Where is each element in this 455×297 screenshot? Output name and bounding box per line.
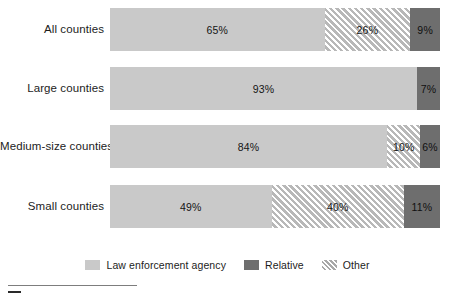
legend-item-law-enforcement-agency: Law enforcement agency	[85, 259, 226, 271]
segment-law-enforcement: 49%	[110, 185, 272, 228]
segment-value: 49%	[180, 201, 202, 213]
bar-row: Medium-size counties 84% 10% 6%	[0, 125, 455, 168]
segment-value: 65%	[206, 24, 228, 36]
bar-row: All counties 65% 26% 9%	[0, 8, 455, 51]
segment-value: 84%	[238, 141, 260, 153]
footnote-marker	[8, 291, 21, 293]
category-label-all-counties: All counties	[0, 8, 104, 51]
legend-item-relative: Relative	[244, 259, 304, 271]
legend-swatch-icon	[85, 260, 100, 270]
segment-law-enforcement: 65%	[110, 8, 325, 51]
bar-row: Large counties 93% 7%	[0, 67, 455, 110]
segment-other: 26%	[325, 8, 411, 51]
segment-relative: 7%	[417, 67, 440, 110]
segment-value: 26%	[357, 24, 379, 36]
segment-value: 11%	[411, 201, 432, 213]
segment-value: 6%	[422, 141, 438, 153]
legend-label: Law enforcement agency	[106, 259, 226, 271]
segment-other: 40%	[272, 185, 404, 228]
segment-value: 93%	[253, 83, 275, 95]
legend-label: Other	[343, 259, 370, 271]
category-label-medium-size-counties: Medium-size counties	[0, 125, 104, 168]
segment-value: 9%	[417, 24, 433, 36]
segment-value: 7%	[421, 83, 437, 95]
segment-value: 10%	[393, 141, 415, 153]
plot-area: All counties 65% 26% 9% Large counties 9…	[0, 0, 455, 240]
stacked-bar-chart: All counties 65% 26% 9% Large counties 9…	[0, 0, 455, 297]
footnote-divider	[8, 285, 137, 286]
stacked-bar-small-counties: 49% 40% 11%	[110, 185, 440, 228]
category-label-large-counties: Large counties	[0, 67, 104, 110]
category-label-small-counties: Small counties	[0, 185, 104, 228]
segment-other: 10%	[387, 125, 420, 168]
segment-relative: 6%	[420, 125, 440, 168]
segment-relative: 9%	[410, 8, 440, 51]
segment-value: 40%	[327, 201, 349, 213]
stacked-bar-all-counties: 65% 26% 9%	[110, 8, 440, 51]
segment-law-enforcement: 84%	[110, 125, 387, 168]
segment-relative: 11%	[404, 185, 440, 228]
legend-label: Relative	[265, 259, 304, 271]
legend-swatch-icon	[244, 260, 259, 270]
bar-row: Small counties 49% 40% 11%	[0, 185, 455, 228]
segment-law-enforcement: 93%	[110, 67, 417, 110]
chart-legend: Law enforcement agency Relative Other	[0, 255, 455, 275]
stacked-bar-medium-size-counties: 84% 10% 6%	[110, 125, 440, 168]
legend-swatch-icon	[322, 260, 337, 270]
stacked-bar-large-counties: 93% 7%	[110, 67, 440, 110]
legend-item-other: Other	[322, 259, 370, 271]
